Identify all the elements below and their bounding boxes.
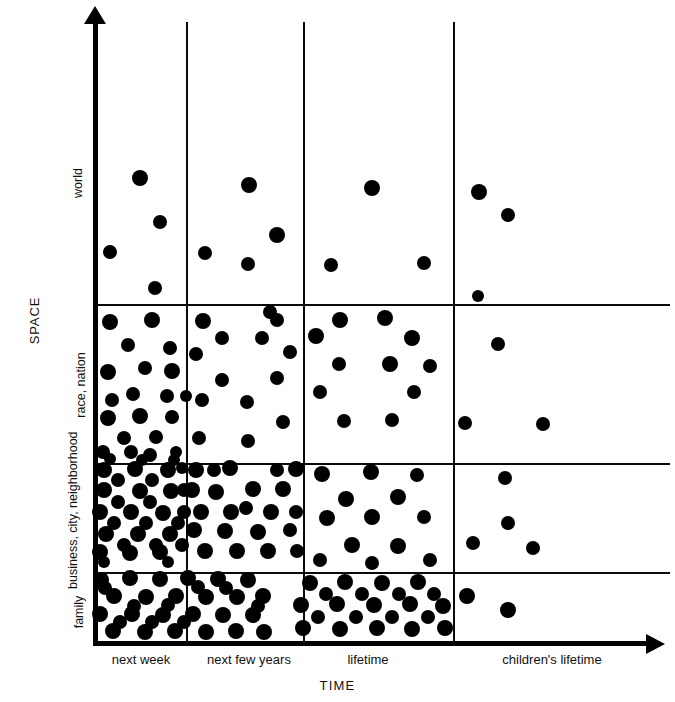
scatter-dot [164,363,180,379]
scatter-dot [472,290,484,302]
scatter-dot [113,615,127,629]
scatter-dot [392,587,406,601]
scatter-dot [223,504,239,520]
x-tick-label-childrens-lifetime: children's lifetime [452,652,652,667]
scatter-dot [382,356,398,372]
scatter-dot [98,556,110,568]
scatter-dot [132,408,148,424]
y-axis-line [93,22,98,646]
scatter-dot [385,610,399,624]
scatter-dot [149,538,163,552]
scatter-dot [283,345,297,359]
scatter-dot [162,526,178,542]
scatter-dot [98,526,114,542]
scatter-dot [198,624,214,640]
scatter-dot [466,536,480,550]
scatter-dot [417,510,431,524]
scatter-dot [127,599,141,613]
y-tick-label-race-nation: race, nation [74,337,88,433]
scatter-dot [337,414,351,428]
scatter-dot [215,373,229,387]
scatter-dot [313,385,327,399]
scatter-dot [111,495,125,509]
scatter-dot [241,177,257,193]
scatter-dot [365,556,379,570]
scatter-dot [390,538,406,554]
scatter-dot [410,468,424,482]
scatter-dot [332,312,348,328]
scatter-dot [500,602,516,618]
x-axis-arrow-icon [646,634,665,654]
scatter-dot [290,544,304,558]
scatter-dot [344,537,360,553]
scatter-dot [198,246,212,260]
scatter-dot [377,310,393,326]
scatter-dot [501,516,515,530]
scatter-dot [270,371,284,385]
scatter-dot [349,610,363,624]
scatter-dot [155,505,171,521]
scatter-dot [423,553,437,567]
scatter-dot [96,445,110,459]
scatter-dot [186,522,202,538]
scatter-dot [289,505,303,519]
scatter-dot [122,545,138,561]
scatter-dot [255,331,269,345]
scatter-dot [437,620,453,636]
scatter-dot [263,504,279,520]
scatter-dot [107,516,121,530]
scatter-dot [329,596,345,612]
scatter-dot [407,385,421,399]
scatter-dot [269,227,285,243]
scatter-dot [458,416,472,430]
scatter-dot [338,491,354,507]
scatter-dot [228,623,244,639]
scatter-dot [240,395,254,409]
scatter-dot [217,523,233,539]
scatter-dot [177,483,191,497]
scatter-dot [121,338,135,352]
scatter-dot [491,337,505,351]
scatter-dot [145,473,159,487]
scatter-dot [501,208,515,222]
scatter-dot [250,524,266,540]
scatter-dot [404,330,420,346]
x-axis-title: TIME [0,678,675,693]
scatter-dot [364,509,380,525]
scatter-dot [208,484,224,500]
scatter-dot [207,463,221,477]
scatter-dot [126,387,140,401]
x-tick-label-next-few-years: next few years [180,652,318,667]
scatter-dot [197,543,213,559]
scatter-dot [459,588,475,604]
scatter-dot [240,572,256,588]
scatter-dot [251,599,265,613]
scatter-dot [219,581,233,595]
scatter-dot [245,607,261,623]
scatter-dot [293,597,309,613]
scatter-dot [427,587,441,601]
gridline-horizontal [96,463,670,465]
scatter-dot [195,313,211,329]
scatter-dot [124,606,140,622]
scatter-dot [117,431,131,445]
chart-figure: SPACE world race, nation business, city,… [0,0,675,702]
scatter-dot [355,587,369,601]
scatter-dot [374,575,390,591]
scatter-dot [402,596,418,612]
scatter-dot [103,245,117,259]
scatter-dot [144,312,160,328]
scatter-dot [239,501,253,515]
scatter-dot [241,257,255,271]
scatter-dot [192,431,206,445]
scatter-dot [100,364,116,380]
scatter-dot [385,413,399,427]
scatter-dot [311,610,325,624]
scatter-dot [132,170,148,186]
scatter-dot [152,544,168,560]
scatter-dot [319,587,333,601]
scatter-dot [536,417,550,431]
scatter-dot [275,481,291,497]
y-tick-label-world: world [71,148,85,218]
scatter-dot [162,556,174,568]
